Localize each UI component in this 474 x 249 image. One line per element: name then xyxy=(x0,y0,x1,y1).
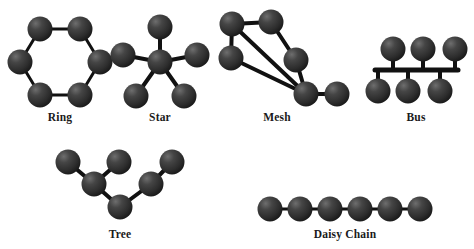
topology-label-ring: Ring xyxy=(48,111,72,124)
tree-node-leaf-3[interactable] xyxy=(160,150,185,175)
daisy-node-1[interactable] xyxy=(258,197,283,222)
topology-label-bus: Bus xyxy=(406,111,425,123)
daisy-node-6[interactable] xyxy=(408,197,433,222)
mesh-node-mid-right[interactable] xyxy=(284,48,309,73)
star-node-top[interactable] xyxy=(148,15,173,40)
topology-label-star: Star xyxy=(149,111,171,123)
network-topologies-figure: RingStarMeshBusTreeDaisy Chain xyxy=(0,0,474,249)
topology-label-tree: Tree xyxy=(109,228,132,240)
topology-label-mesh: Mesh xyxy=(263,111,291,123)
daisy-node-4[interactable] xyxy=(348,197,373,222)
tree-node-leaf-2[interactable] xyxy=(107,150,132,175)
ring-node-top-right[interactable] xyxy=(68,17,93,42)
topology-label-daisy-chain: Daisy Chain xyxy=(314,228,377,241)
bus-node-top-2[interactable] xyxy=(411,37,436,62)
mesh-node-top-right[interactable] xyxy=(259,10,284,35)
ring-node-right[interactable] xyxy=(88,50,113,75)
mesh-node-top-left[interactable] xyxy=(220,12,245,37)
star-node-bottom-left[interactable] xyxy=(124,84,149,109)
bus-node-bottom-2[interactable] xyxy=(396,79,421,104)
bus-node-top-1[interactable] xyxy=(381,37,406,62)
star-node-center[interactable] xyxy=(148,50,173,75)
daisy-node-2[interactable] xyxy=(288,197,313,222)
star-node-bottom-right[interactable] xyxy=(172,84,197,109)
tree-node-root[interactable] xyxy=(108,195,133,220)
star-node-right[interactable] xyxy=(185,43,210,68)
bus-node-top-3[interactable] xyxy=(443,37,468,62)
bus-node-bottom-1[interactable] xyxy=(366,79,391,104)
ring-node-bottom-right[interactable] xyxy=(68,83,93,108)
daisy-node-3[interactable] xyxy=(318,197,343,222)
bus-node-bottom-3[interactable] xyxy=(428,79,453,104)
star-node-left[interactable] xyxy=(111,43,136,68)
ring-node-left[interactable] xyxy=(8,50,33,75)
daisy-node-5[interactable] xyxy=(378,197,403,222)
tree-node-branch-right[interactable] xyxy=(139,172,164,197)
tree-node-branch-left[interactable] xyxy=(82,172,107,197)
ring-node-top-left[interactable] xyxy=(28,17,53,42)
mesh-node-right[interactable] xyxy=(325,82,350,107)
mesh-node-mid-left[interactable] xyxy=(219,46,244,71)
ring-node-bottom-left[interactable] xyxy=(28,83,53,108)
mesh-node-hub[interactable] xyxy=(294,82,319,107)
tree-node-leaf-1[interactable] xyxy=(56,150,81,175)
